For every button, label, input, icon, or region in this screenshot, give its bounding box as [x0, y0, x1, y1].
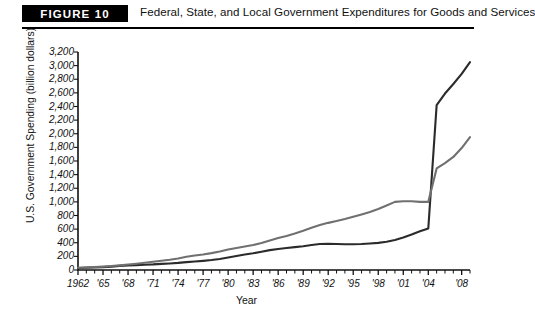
series-line — [78, 137, 470, 268]
data-series-layer — [78, 62, 470, 268]
series-line — [78, 62, 470, 268]
axis-layer — [74, 52, 470, 275]
